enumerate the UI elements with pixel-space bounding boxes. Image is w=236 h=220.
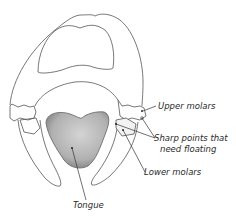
- upper-jaw-outline: [10, 14, 143, 106]
- palate-opening: [38, 25, 114, 73]
- label-lower-molars: Lower molars: [144, 167, 201, 177]
- right-lower-molars: [116, 118, 136, 136]
- leader-upper-molars: [143, 106, 156, 111]
- label-sharp-points-line1: Sharp points that: [154, 133, 228, 143]
- leader-lower-molars: [123, 130, 145, 172]
- left-lower-molars: [20, 118, 40, 134]
- label-sharp-points-line2: need floating: [160, 144, 216, 154]
- pointer-dot-tongue: [71, 147, 73, 149]
- label-upper-molars: Upper molars: [158, 101, 215, 111]
- pointer-dot-upper-molars: [141, 110, 143, 112]
- upper-jaw-inner-arch: [35, 82, 118, 106]
- label-tongue: Tongue: [73, 200, 104, 210]
- pointer-dot-lower-molars: [122, 129, 124, 131]
- tongue: [46, 112, 109, 168]
- pointer-dot-sharp-lower: [115, 123, 117, 125]
